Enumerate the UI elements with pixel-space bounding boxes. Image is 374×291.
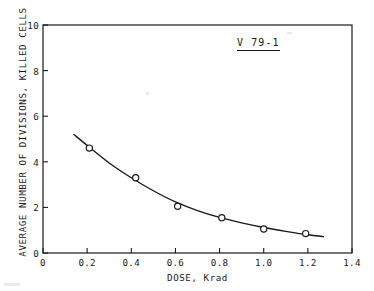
x-tick-label: 1.0 [255,257,273,268]
y-tick-label: 0 [33,248,39,259]
plot-canvas [0,0,374,291]
x-tick-label: 0.4 [123,257,141,268]
x-tick-label: 0.6 [167,257,185,268]
chart-figure: 0246810 00.20.40.60.81.01.21.4 AVERAGE N… [0,0,374,291]
axis-ticks [43,25,352,253]
data-points [86,145,309,237]
x-tick-label: 1.4 [343,257,361,268]
x-tick-label: 0 [40,257,46,268]
series-annotation-label: V 79-1 [237,37,280,51]
x-tick-label: 1.2 [299,257,317,268]
y-tick-label: 6 [33,111,39,122]
y-axis-title: AVERAGE NUMBER OF DIVISIONS, KILLED CELL… [16,2,30,262]
x-tick-label: 0.2 [78,257,96,268]
fit-curve [74,134,323,236]
axes-frame [43,25,352,253]
y-tick-label: 4 [33,156,39,167]
y-tick-label: 8 [33,65,39,76]
plot-border [43,25,352,253]
x-tick-label: 0.8 [211,257,229,268]
x-axis-title: DOSE, Krad [43,272,352,283]
y-tick-label: 2 [33,202,39,213]
